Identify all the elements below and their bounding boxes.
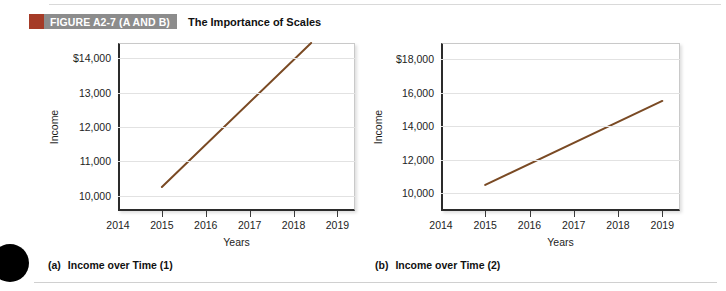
y-tick-label-b: $18,000 xyxy=(396,53,434,65)
x-tick-mark-a xyxy=(250,211,251,217)
figure-number-band: FIGURE A2-7 (A AND B) xyxy=(44,14,177,29)
chart-panel-a: Income Years 10,00011,00012,00013,000$14… xyxy=(30,40,375,280)
x-tick-label-b: 2017 xyxy=(562,219,585,231)
panel-caption-text-a: Income over Time (1) xyxy=(68,259,173,271)
y-tick-label-b: 10,000 xyxy=(402,187,434,199)
panel-caption-tag-b: (b) xyxy=(375,259,388,271)
y-tick-label-a: 13,000 xyxy=(79,87,111,99)
top-divider xyxy=(49,4,721,5)
x-tick-label-b: 2018 xyxy=(606,219,629,231)
figure-title: The Importance of Scales xyxy=(177,14,321,29)
figure-color-swatch xyxy=(29,14,44,29)
y-tick-label-a: $14,000 xyxy=(73,52,111,64)
y-tick-label-a: 11,000 xyxy=(80,155,111,167)
series-path-b xyxy=(485,101,662,185)
bottom-divider xyxy=(34,282,717,283)
x-tick-mark-a xyxy=(206,211,207,217)
series-path-a xyxy=(162,43,311,187)
x-tick-label-a: 2017 xyxy=(238,219,261,231)
y-axis-title-a: Income xyxy=(48,110,60,144)
plot-area-b: Income Years 10,00012,00014,00016,000$18… xyxy=(441,43,680,211)
gridline-a xyxy=(118,161,355,162)
y-axis-title-b: Income xyxy=(372,110,384,144)
gridline-b xyxy=(441,160,680,161)
gridline-a xyxy=(118,196,355,197)
gridline-b xyxy=(441,193,680,194)
figure-header: FIGURE A2-7 (A AND B) The Importance of … xyxy=(29,14,321,29)
x-tick-mark-b xyxy=(662,211,663,217)
x-tick-label-b: 2019 xyxy=(651,219,674,231)
gridline-a xyxy=(118,93,355,94)
x-tick-label-b: 2015 xyxy=(474,219,497,231)
panel-caption-b: (b)Income over Time (2) xyxy=(375,259,500,271)
y-tick-label-b: 14,000 xyxy=(402,120,434,132)
gridline-a xyxy=(118,58,355,59)
x-tick-label-a: 2019 xyxy=(326,219,349,231)
x-tick-label-b: 2016 xyxy=(518,219,541,231)
x-tick-label-a: 2015 xyxy=(150,219,173,231)
gridline-b xyxy=(441,59,680,60)
x-axis-title-a: Years xyxy=(118,236,355,248)
page-marker-dot xyxy=(0,244,29,282)
panel-caption-tag-a: (a) xyxy=(48,259,61,271)
x-axis-title-b: Years xyxy=(441,236,680,248)
y-tick-label-a: 10,000 xyxy=(79,190,111,202)
x-tick-label-a: 2016 xyxy=(194,219,217,231)
panel-caption-text-b: Income over Time (2) xyxy=(395,259,500,271)
x-tick-mark-a xyxy=(162,211,163,217)
chart-panel-b: Income Years 10,00012,00014,00016,000$18… xyxy=(375,40,720,280)
x-tick-mark-b xyxy=(574,211,575,217)
x-tick-mark-a xyxy=(337,211,338,217)
x-tick-label-b: 2014 xyxy=(429,219,452,231)
gridline-a xyxy=(118,127,355,128)
panel-caption-a: (a)Income over Time (1) xyxy=(48,259,173,271)
x-tick-mark-a xyxy=(294,211,295,217)
x-tick-mark-b xyxy=(485,211,486,217)
x-tick-mark-b xyxy=(530,211,531,217)
x-tick-mark-b xyxy=(618,211,619,217)
plot-area-a: Income Years 10,00011,00012,00013,000$14… xyxy=(118,43,355,211)
x-tick-label-a: 2014 xyxy=(106,219,129,231)
y-tick-label-b: 16,000 xyxy=(402,87,434,99)
y-tick-label-b: 12,000 xyxy=(402,154,434,166)
y-tick-label-a: 12,000 xyxy=(79,121,111,133)
x-tick-label-a: 2018 xyxy=(282,219,305,231)
gridline-b xyxy=(441,93,680,94)
gridline-b xyxy=(441,126,680,127)
